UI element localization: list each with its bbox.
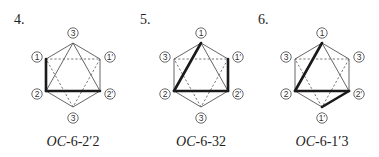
ligand-label-top: 1 (196, 28, 206, 38)
caption-prefix: OC (47, 134, 67, 149)
ligand-label-text: 3 (71, 28, 76, 38)
octahedron-diagram-5: 5.131′22′3OC-6-32 (140, 12, 243, 149)
ligand-label-bottom: 3 (68, 113, 78, 123)
ligand-label-text: 1′ (107, 52, 114, 62)
ligand-label-text: 1 (320, 28, 325, 38)
ligand-label-text: 2′ (356, 89, 363, 99)
octahedral-isomer-figure: 4.311′22′3OC-6-2′25.131′22′3OC-6-326.133… (0, 0, 379, 157)
configuration-caption: OC-6-32 (176, 134, 226, 149)
ligand-label-upper-left: 3 (281, 52, 291, 62)
ligand-label-lower-right: 2′ (105, 89, 115, 99)
diagram-number: 4. (14, 12, 25, 27)
ligand-label-text: 2 (284, 89, 289, 99)
octahedron-diagram-6: 6.13322′1′OC-6-1′3 (258, 12, 364, 149)
ligand-label-text: 3 (163, 52, 168, 62)
ligand-label-bottom: 3 (196, 113, 206, 123)
configuration-caption: OC-6-2′2 (47, 134, 100, 149)
ligand-label-lower-right: 2′ (233, 89, 243, 99)
caption-prefix: OC (176, 134, 196, 149)
diagram-number: 6. (258, 12, 269, 27)
diagram-number: 5. (140, 12, 151, 27)
ligand-label-lower-left: 2 (32, 89, 42, 99)
ligand-label-text: 1 (199, 28, 204, 38)
ligand-label-text: 1 (35, 52, 40, 62)
ligand-label-bottom: 1′ (317, 113, 327, 123)
ligand-label-text: 3 (199, 113, 204, 123)
caption-prefix: OC (296, 134, 316, 149)
ligand-label-text: 3 (284, 52, 289, 62)
ligand-label-lower-left: 2 (160, 89, 170, 99)
ligand-label-top: 3 (68, 28, 78, 38)
ligand-label-text: 1′ (319, 113, 326, 123)
configuration-caption: OC-6-1′3 (296, 134, 349, 149)
ligand-label-text: 2′ (107, 89, 114, 99)
ligand-label-lower-left: 2 (281, 89, 291, 99)
ligand-label-text: 2′ (235, 89, 242, 99)
ligand-label-text: 3 (71, 113, 76, 123)
ligand-label-upper-left: 3 (160, 52, 170, 62)
ligand-label-upper-left: 1 (32, 52, 42, 62)
caption-suffix: -6-1′3 (315, 134, 348, 149)
edge-bottom-lower_right (73, 91, 100, 107)
ligand-label-lower-right: 2′ (354, 89, 364, 99)
ligand-label-upper-right: 1′ (233, 52, 243, 62)
ligand-label-text: 2 (163, 89, 168, 99)
ligand-label-text: 2 (35, 89, 40, 99)
edge-bottom-lower_right (201, 91, 228, 107)
ligand-label-text: 3 (357, 52, 362, 62)
ligand-label-text: 1′ (235, 52, 242, 62)
caption-suffix: -6-32 (196, 134, 226, 149)
chelate-edge-lower_right-bottom (322, 91, 349, 107)
ligand-label-top: 1 (317, 28, 327, 38)
ligand-label-upper-right: 3 (354, 52, 364, 62)
ligand-label-upper-right: 1′ (105, 52, 115, 62)
caption-suffix: -6-2′2 (66, 134, 99, 149)
octahedron-diagram-4: 4.311′22′3OC-6-2′2 (14, 12, 115, 149)
